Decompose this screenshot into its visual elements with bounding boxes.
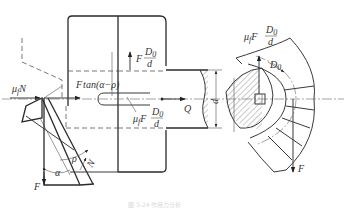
- alpha-label: α: [55, 167, 61, 178]
- housing-top-edge: [68, 16, 112, 71]
- right-friction-label: μfF: [243, 31, 258, 44]
- diagram-canvas: μfN F α ρ N Ftan(α−ρ) F D0 d μfF D0 d Q: [0, 0, 346, 212]
- tooth-line-5: [268, 136, 292, 160]
- wedge-assembly: [22, 16, 118, 185]
- gear-body: [98, 16, 208, 172]
- output-force-label: Q: [184, 103, 192, 114]
- rim-edge-bottom: [248, 142, 286, 172]
- tooth-line-2: [286, 106, 314, 110]
- wedge-housing-outline: [22, 38, 62, 98]
- figure-caption: 图 3-24 作用力分析: [128, 201, 181, 209]
- axial-force-f-label: F: [135, 53, 143, 64]
- right-force-label: F: [297, 163, 305, 174]
- pitch-diameter-label: D0: [269, 59, 281, 72]
- force-analysis-diagram: μfN F α ρ N Ftan(α−ρ) F D0 d μfF D0 d Q: [0, 0, 346, 212]
- tooth-line-4: [276, 128, 302, 146]
- rim-edge-top: [236, 58, 242, 64]
- wedge-force-label: Ftan(α−ρ): [75, 79, 120, 91]
- friction-torque-label: μfF: [132, 113, 147, 126]
- wedge-head: [22, 98, 42, 122]
- friction-torque-denominator: d: [154, 118, 160, 129]
- body-bottom-right: [118, 130, 166, 172]
- friction-normal-label: μfN: [11, 83, 27, 96]
- tooth-line-3: [282, 118, 310, 128]
- rho-label: ρ: [71, 153, 77, 164]
- wedge-guide-line: [44, 86, 62, 98]
- left-force-label: F: [33, 181, 41, 192]
- axial-force-denominator: d: [147, 58, 153, 69]
- tooth-line-1: [284, 86, 314, 90]
- base-line-end: [80, 184, 94, 185]
